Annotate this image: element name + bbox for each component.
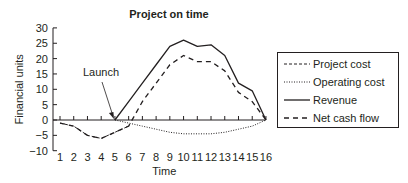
x-tick-label: 6 <box>126 151 132 163</box>
x-tick-label: 2 <box>71 151 77 163</box>
y-tick-label: 30 <box>36 22 48 34</box>
x-tick-label: 4 <box>98 151 104 163</box>
series-operating-cost <box>115 120 266 134</box>
y-axis-label: Financial units <box>13 54 25 125</box>
annotation-arrow-line <box>102 82 113 116</box>
series-revenue <box>115 40 266 120</box>
x-tick-label: 13 <box>219 151 231 163</box>
legend-item-net-cash-flow: Net cash flow <box>284 111 379 125</box>
dashed-long-line-icon <box>284 115 310 121</box>
y-tick-label: −5 <box>35 129 48 141</box>
y-tick-label: 5 <box>42 99 48 111</box>
x-tick-label: 15 <box>246 151 258 163</box>
x-axis-label: Time <box>152 165 176 177</box>
y-tick-label: 25 <box>36 37 48 49</box>
x-tick-label: 9 <box>167 151 173 163</box>
x-tick-label: 16 <box>260 151 272 163</box>
legend-item-revenue: Revenue <box>284 93 357 107</box>
solid-line-icon <box>284 97 310 103</box>
dashed-short-line-icon <box>284 61 310 67</box>
legend: Project cost Operating cost Revenue Net … <box>277 52 399 128</box>
y-tick-label: 20 <box>36 53 48 65</box>
x-tick-label: 8 <box>153 151 159 163</box>
legend-item-operating-cost: Operating cost <box>284 75 385 89</box>
x-tick-label: 14 <box>232 151 244 163</box>
arrow-head-icon <box>109 112 114 119</box>
x-tick-label: 1 <box>57 151 63 163</box>
x-tick-label: 12 <box>205 151 217 163</box>
x-tick-label: 5 <box>112 151 118 163</box>
legend-label: Revenue <box>313 94 357 106</box>
annotation-label: Launch <box>83 66 119 78</box>
legend-label: Net cash flow <box>313 112 379 124</box>
y-tick-label: 10 <box>36 83 48 95</box>
legend-label: Project cost <box>313 58 370 70</box>
x-tick-label: 11 <box>192 151 203 163</box>
x-tick-label: 10 <box>177 151 189 163</box>
y-tick-label: −10 <box>29 145 48 157</box>
x-tick-label: 3 <box>84 151 90 163</box>
y-tick-label: 15 <box>36 68 48 80</box>
y-tick-label: 0 <box>42 114 48 126</box>
legend-item-project-cost: Project cost <box>284 57 370 71</box>
dotted-line-icon <box>284 79 310 85</box>
legend-label: Operating cost <box>313 76 385 88</box>
x-tick-label: 7 <box>139 151 145 163</box>
